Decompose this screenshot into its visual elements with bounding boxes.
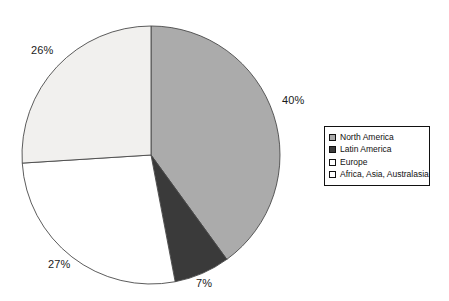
- chart-legend: North America Latin America Europe Afric…: [324, 126, 430, 186]
- legend-item-latin-america: Latin America: [329, 144, 425, 156]
- legend-label-africa-asia-australasia: Africa, Asia, Australasia: [340, 170, 429, 179]
- legend-label-latin-america: Latin America: [340, 145, 392, 154]
- slice-label-europe: 27%: [48, 258, 70, 270]
- slice-label-africa-asia: 26%: [31, 44, 53, 56]
- slice-label-latin-america: 7%: [196, 277, 212, 289]
- legend-swatch-africa-asia-australasia: [329, 171, 336, 178]
- legend-swatch-north-america: [329, 134, 336, 141]
- legend-item-europe: Europe: [329, 156, 425, 168]
- legend-swatch-latin-america: [329, 146, 336, 153]
- pie-chart-figure: 40% 7% 27% 26% North America Latin Ameri…: [0, 0, 449, 301]
- legend-item-africa-asia-australasia: Africa, Asia, Australasia: [329, 169, 425, 181]
- legend-label-north-america: North America: [340, 133, 394, 142]
- legend-label-europe: Europe: [340, 158, 367, 167]
- legend-swatch-europe: [329, 159, 336, 166]
- pie-slice: [22, 155, 175, 284]
- slice-label-north-america: 40%: [282, 94, 304, 106]
- legend-item-north-america: North America: [329, 131, 425, 143]
